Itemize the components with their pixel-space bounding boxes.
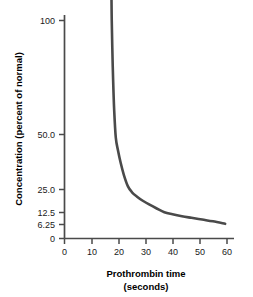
x-axis-title-line2: (seconds) [124,281,169,292]
x-tick-label-20: 20 [114,247,124,257]
x-tick-label-40: 40 [168,247,178,257]
x-tick-label-50: 50 [195,247,205,257]
x-tick-label-60: 60 [222,247,232,257]
y-tick-label-12-5: 12.5 [37,208,55,218]
y-tick-label-100: 100 [40,16,55,26]
y-axis-title: Concentration (percent of normal) [13,52,24,206]
chart-figure: 100 50.0 25.0 12.5 6.25 0 0 10 20 30 40 … [0,0,253,297]
x-tick-label-30: 30 [141,247,151,257]
x-tick-label-10: 10 [87,247,97,257]
chart-plot-area: 100 50.0 25.0 12.5 6.25 0 0 10 20 30 40 … [0,0,253,297]
y-tick-label-25: 25.0 [37,185,55,195]
y-tick-label-0: 0 [50,234,55,244]
y-tick-label-50: 50.0 [37,130,55,140]
x-tick-label-0: 0 [62,247,67,257]
y-tick-label-6-25: 6.25 [37,220,55,230]
data-curve-concentration [111,0,225,224]
x-axis-title-line1: Prothrombin time [106,268,185,279]
